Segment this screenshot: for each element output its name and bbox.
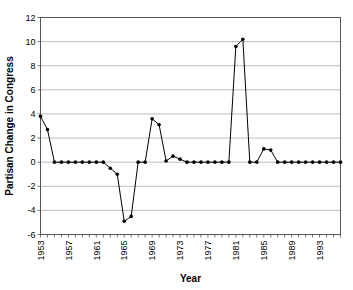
data-point-marker xyxy=(115,172,119,176)
x-tick-label: 1965 xyxy=(119,241,129,261)
data-point-marker xyxy=(101,160,105,164)
data-point-marker xyxy=(227,160,231,164)
data-point-marker xyxy=(255,160,259,164)
data-point-marker xyxy=(234,45,238,49)
x-tick-label: 1977 xyxy=(203,241,213,261)
y-tick-label: 8 xyxy=(30,61,35,71)
data-point-marker xyxy=(339,160,343,164)
data-point-marker xyxy=(53,160,57,164)
data-point-marker xyxy=(136,160,140,164)
y-axis-title: Partisan Change in Congress xyxy=(4,56,15,196)
data-point-marker xyxy=(262,147,266,151)
data-point-marker xyxy=(60,160,64,164)
data-point-marker xyxy=(129,215,133,219)
y-tick-label: 4 xyxy=(30,109,35,119)
data-point-marker xyxy=(269,148,273,152)
data-point-marker xyxy=(122,219,126,223)
y-tick-label: 0 xyxy=(30,157,35,167)
data-point-marker xyxy=(150,117,154,121)
data-point-marker xyxy=(192,160,196,164)
x-tick-label: 1961 xyxy=(92,241,102,261)
data-point-marker xyxy=(220,160,224,164)
partisan-change-line-chart: -6-4-2024681012 195319571961196519691973… xyxy=(0,0,353,290)
x-tick-label: 1985 xyxy=(259,241,269,261)
data-point-marker xyxy=(164,159,168,163)
data-point-marker xyxy=(304,160,308,164)
data-point-marker xyxy=(178,157,182,161)
chart-canvas: -6-4-2024681012 195319571961196519691973… xyxy=(0,0,353,290)
y-tick-label: -4 xyxy=(27,205,35,215)
data-point-marker xyxy=(248,160,252,164)
y-tick-label: -6 xyxy=(27,230,35,240)
x-tick-label: 1969 xyxy=(147,241,157,261)
data-point-marker xyxy=(206,160,210,164)
data-point-marker xyxy=(213,160,217,164)
data-point-marker xyxy=(46,128,50,132)
data-point-marker xyxy=(241,37,245,41)
x-axis-title: Year xyxy=(180,273,201,284)
data-point-marker xyxy=(199,160,203,164)
y-tick-label: 6 xyxy=(30,85,35,95)
data-point-marker xyxy=(67,160,71,164)
x-tick-label: 1953 xyxy=(36,241,46,261)
data-point-marker xyxy=(95,160,99,164)
data-point-marker xyxy=(325,160,329,164)
x-tick-label: 1957 xyxy=(64,241,74,261)
y-tick-label: 2 xyxy=(30,133,35,143)
data-point-marker xyxy=(171,154,175,158)
data-point-marker xyxy=(143,160,147,164)
data-point-marker xyxy=(332,160,336,164)
y-tick-label: 12 xyxy=(25,13,35,23)
data-point-marker xyxy=(157,123,161,127)
data-point-marker xyxy=(276,160,280,164)
y-tick-label: 10 xyxy=(25,37,35,47)
data-point-marker xyxy=(185,160,189,164)
data-point-marker xyxy=(290,160,294,164)
data-point-marker xyxy=(283,160,287,164)
x-tick-label: 1981 xyxy=(231,241,241,261)
data-point-marker xyxy=(88,160,92,164)
y-tick-label: -2 xyxy=(27,181,35,191)
data-point-marker xyxy=(81,160,85,164)
data-point-marker xyxy=(108,166,112,170)
x-tick-label: 1973 xyxy=(175,241,185,261)
data-point-marker xyxy=(297,160,301,164)
data-point-marker xyxy=(74,160,78,164)
x-tick-label: 1989 xyxy=(287,241,297,261)
data-point-marker xyxy=(311,160,315,164)
x-tick-label: 1993 xyxy=(315,241,325,261)
data-point-marker xyxy=(39,115,43,119)
data-point-marker xyxy=(318,160,322,164)
